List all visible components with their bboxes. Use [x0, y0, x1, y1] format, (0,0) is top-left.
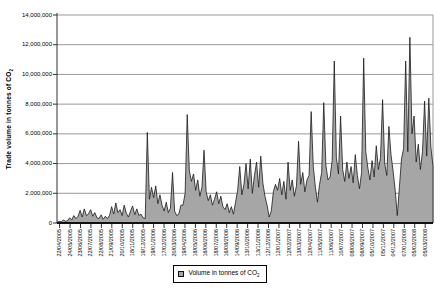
legend-label-text: Volume in tonnes of CO: [188, 269, 257, 276]
legend-label: Volume in tonnes of CO2: [188, 269, 259, 279]
y-tick-label: 12,000,000: [10, 41, 52, 48]
legend-label-subscript: 2: [257, 273, 260, 278]
y-tick-label: 8,000,000: [10, 101, 52, 108]
y-tick-label: 0: [10, 220, 52, 227]
legend: Volume in tonnes of CO2: [173, 265, 266, 283]
y-tick-label: 6,000,000: [10, 130, 52, 137]
area-series-swatch-icon: [178, 271, 184, 277]
volume-area-series: [57, 37, 433, 223]
y-tick-label: 4,000,000: [10, 160, 52, 167]
y-tick-label: 2,000,000: [10, 190, 52, 197]
legend-row: Volume in tonnes of CO2: [0, 265, 440, 283]
chart-figure: Trade volume in tonnes of CO2 02,000,000…: [0, 0, 440, 289]
y-tick-label: 14,000,000: [10, 12, 52, 19]
y-tick-label: 10,000,000: [10, 71, 52, 78]
